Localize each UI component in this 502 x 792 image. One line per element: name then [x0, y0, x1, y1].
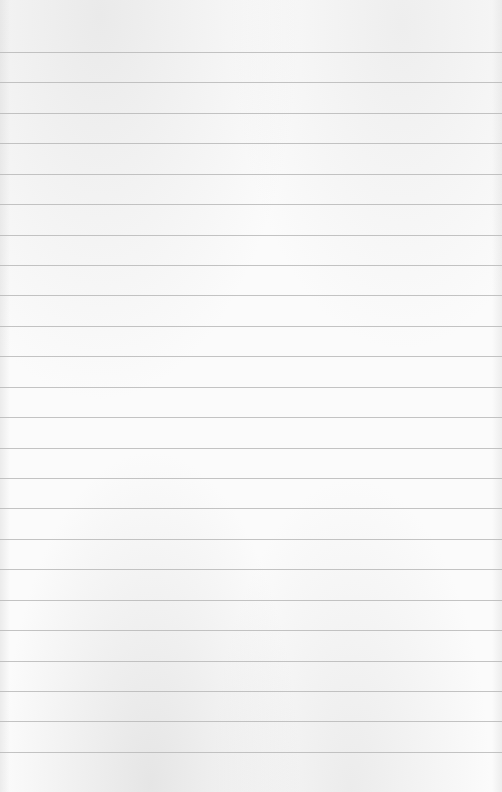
ruled-line [0, 448, 502, 449]
ruled-line [0, 600, 502, 601]
ruled-line [0, 417, 502, 418]
ruled-line [0, 721, 502, 722]
ruled-line [0, 569, 502, 570]
ruled-line [0, 52, 502, 53]
ruled-line [0, 752, 502, 753]
ruled-line [0, 691, 502, 692]
ruled-line [0, 204, 502, 205]
ruled-line [0, 235, 502, 236]
ruled-line [0, 265, 502, 266]
ruled-line [0, 356, 502, 357]
lined-paper-sheet [0, 0, 502, 792]
ruled-line [0, 630, 502, 631]
ruled-line [0, 326, 502, 327]
ruled-line [0, 387, 502, 388]
ruled-line [0, 174, 502, 175]
ruled-line [0, 113, 502, 114]
ruled-line [0, 82, 502, 83]
ruled-line [0, 478, 502, 479]
ruled-line [0, 143, 502, 144]
ruled-line [0, 508, 502, 509]
ruled-line [0, 295, 502, 296]
ruled-line [0, 661, 502, 662]
ruled-line [0, 539, 502, 540]
